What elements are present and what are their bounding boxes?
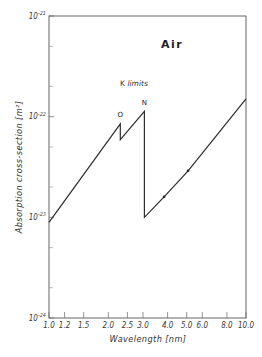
data-point-marker xyxy=(187,169,190,172)
x-tick-label: 3.0 xyxy=(137,321,149,330)
x-tick-label: 6.0 xyxy=(197,321,209,330)
x-tick-label: 1.2 xyxy=(59,321,71,330)
chart-title: Air xyxy=(161,38,183,51)
x-tick-label: 5.0 xyxy=(181,321,193,330)
plot-frame xyxy=(49,16,246,318)
edge-label-o: O xyxy=(118,111,124,119)
k-limits-annotation: K limits xyxy=(120,79,148,88)
series-line-air xyxy=(49,99,246,222)
y-axis-label: Absorption cross-section [m²] xyxy=(14,101,24,235)
data-series xyxy=(49,99,246,222)
x-axis-ticks: 1.01.21.52.02.53.04.05.06.08.010.0 xyxy=(43,312,254,330)
edge-label-n: N xyxy=(142,99,147,107)
x-axis-label: Wavelength [nm] xyxy=(110,334,187,344)
x-tick-label: 1.0 xyxy=(43,321,55,330)
y-tick-label: 10-21 xyxy=(29,10,46,21)
data-point-marker xyxy=(163,195,166,198)
x-tick-label: 4.0 xyxy=(162,321,174,330)
x-tick-label: 8.0 xyxy=(221,321,233,330)
x-tick-label: 1.5 xyxy=(78,321,90,330)
y-tick-label: 10-22 xyxy=(29,111,46,122)
x-tick-label: 2.0 xyxy=(103,321,115,330)
x-tick-label: 2.5 xyxy=(122,321,134,330)
absorption-chart: 10-2410-2310-2210-21 1.01.21.52.02.53.04… xyxy=(0,0,262,357)
y-axis-ticks: 10-2410-2310-2210-21 xyxy=(29,10,54,323)
x-tick-label: 10.0 xyxy=(238,321,254,330)
y-tick-label: 10-23 xyxy=(29,211,46,222)
